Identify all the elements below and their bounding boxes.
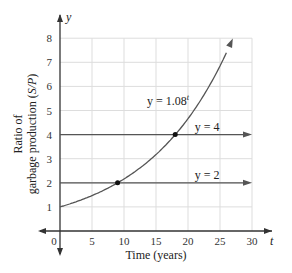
x-tick-label: 15 [151, 235, 163, 247]
chart: 05101520253012345678 y = 4y = 2y = 1.08t… [0, 0, 292, 273]
y-tick-label: 3 [47, 153, 53, 165]
intersection-point [115, 180, 120, 185]
arrow-right-icon [243, 132, 252, 138]
x-axis-symbol: t [270, 234, 274, 248]
y-axis-arrow-up-icon [57, 14, 63, 22]
series-label: y = 2 [195, 168, 220, 182]
y-axis-label-line2-text: garbage production (S/P) [25, 74, 39, 195]
curve-label-exponent: t [187, 93, 190, 102]
x-tick-label: 0 [51, 235, 57, 247]
curve-label: y = 1.08t [147, 93, 190, 108]
curve-arrow-icon [226, 38, 233, 48]
y-tick-label: 2 [47, 177, 53, 189]
x-tick-label: 30 [247, 235, 259, 247]
y-tick-label: 4 [47, 129, 53, 141]
y-axis-label-line1: Ratio of [11, 115, 25, 154]
tick-labels: 05101520253012345678 [47, 32, 259, 247]
y-tick-label: 5 [47, 105, 53, 117]
intersection-point [173, 132, 178, 137]
y-tick-label: 1 [47, 201, 53, 213]
y-axis-label-line2: garbage production (S/P) [25, 74, 39, 195]
series-label: y = 4 [195, 120, 220, 134]
x-axis-label: Time (years) [125, 248, 186, 262]
ratio-symbol: S/P [25, 77, 39, 94]
x-tick-label: 25 [215, 235, 227, 247]
y-axis-arrow-down-icon [57, 248, 63, 256]
y-tick-label: 6 [47, 80, 53, 92]
x-tick-label: 10 [119, 235, 131, 247]
x-axis-arrow-left-icon [38, 228, 46, 234]
arrow-right-icon [243, 180, 252, 186]
y-axis-symbol: y [65, 10, 72, 24]
x-tick-label: 20 [183, 235, 195, 247]
y-tick-label: 7 [47, 56, 53, 68]
y-tick-label: 8 [47, 32, 53, 44]
x-tick-label: 5 [89, 235, 95, 247]
